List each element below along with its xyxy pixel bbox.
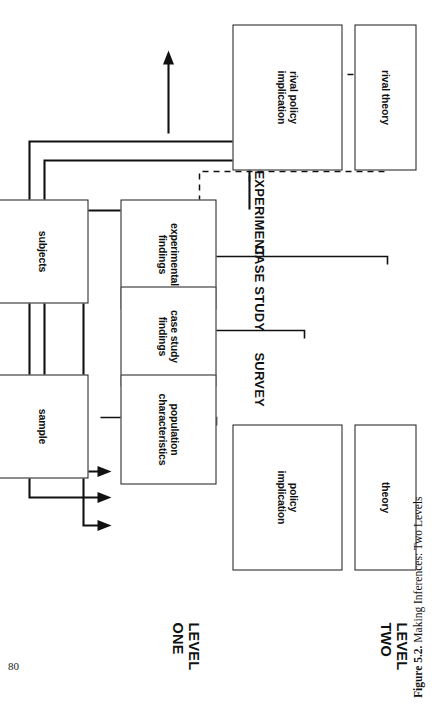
level-label-two: LEVEL TWO	[377, 622, 408, 670]
box-case-study-findings: case study findings	[120, 286, 216, 386]
design-label-experiment: EXPERIMENT	[251, 170, 266, 257]
box-policy-implication: policy implication	[232, 424, 342, 570]
box-subjects: subjects	[0, 199, 88, 303]
box-rival-policy-implication: rival policy implication	[232, 24, 342, 170]
diagram-canvas: rival theory rival policy implication th…	[0, 0, 432, 705]
design-label-survey: SURVEY	[251, 352, 266, 406]
design-label-case-study: CASE STUDY	[251, 245, 266, 331]
figure-caption: Figure 5.2. Making Inferences: Two Level…	[412, 496, 424, 698]
figure-caption-text: Making Inferences: Two Levels	[412, 496, 424, 642]
arrow-subjects-to-experimental-findings	[163, 50, 174, 133]
box-sample: sample	[0, 374, 88, 478]
page-number: 80	[8, 660, 19, 672]
figure-caption-label: Figure 5.2.	[412, 646, 424, 699]
box-population-characteristics: population characteristics	[120, 374, 216, 484]
level-label-one: LEVEL ONE	[169, 622, 200, 670]
figure-page: rival theory rival policy implication th…	[0, 0, 432, 705]
box-rival-theory: rival theory	[354, 24, 416, 170]
box-theory: theory	[354, 424, 416, 570]
